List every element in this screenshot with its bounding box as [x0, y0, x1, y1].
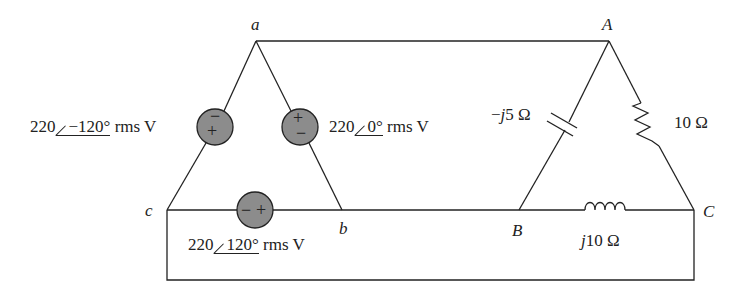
source-right-magnitude: 220 [329, 117, 355, 136]
wire-A-res [609, 41, 641, 103]
source-left-angle: −120° [69, 117, 111, 136]
polarity-plus-bottom: + [256, 201, 266, 219]
wire-src2-b [309, 143, 342, 210]
source-label-left: 220−120° rms V [30, 118, 156, 136]
node-label-a: a [251, 16, 260, 33]
angle-symbol: 120° [214, 236, 259, 254]
circuit-diagram: − + + − − + a c b A B C 220−120° rms V 2… [0, 0, 737, 301]
source-bottom-unit: rms V [263, 235, 305, 254]
capacitor-label: −j5 Ω [491, 106, 531, 123]
source-label-bottom: 220120° rms V [188, 236, 305, 254]
ind-value: 10 Ω [586, 231, 620, 250]
wire-src1-c [167, 143, 206, 210]
circuit-schematic [0, 0, 737, 301]
node-label-b: b [339, 220, 348, 237]
wire-cap-B [519, 130, 565, 210]
node-label-A: A [602, 16, 612, 33]
cap-sign: − [491, 105, 501, 124]
resistor-icon [633, 103, 659, 146]
node-label-c: c [145, 202, 153, 219]
source-right-unit: rms V [387, 117, 429, 136]
wire-a-src1 [224, 41, 256, 111]
cap-value: 5 Ω [505, 105, 530, 124]
wire-res-C [659, 146, 694, 210]
source-right-angle: 0° [368, 117, 383, 136]
wire-a-src2 [256, 41, 291, 111]
polarity-plus-left: + [207, 122, 217, 140]
angle-symbol: −120° [56, 118, 111, 136]
node-label-C: C [703, 203, 714, 220]
node-label-B: B [512, 222, 522, 239]
source-bottom-angle: 120° [227, 235, 259, 254]
source-left-magnitude: 220 [30, 117, 56, 136]
source-left-unit: rms V [115, 117, 157, 136]
inductor-label: j10 Ω [581, 232, 620, 249]
source-label-right: 2200° rms V [329, 118, 429, 136]
wire-A-cap [569, 41, 609, 122]
angle-symbol: 0° [355, 118, 383, 136]
resistor-label: 10 Ω [674, 114, 708, 131]
capacitor-icon [547, 113, 577, 136]
inductor-icon [585, 203, 625, 211]
source-bottom-magnitude: 220 [188, 235, 214, 254]
polarity-minus-right: − [296, 124, 306, 142]
polarity-minus-bottom: − [241, 201, 251, 219]
